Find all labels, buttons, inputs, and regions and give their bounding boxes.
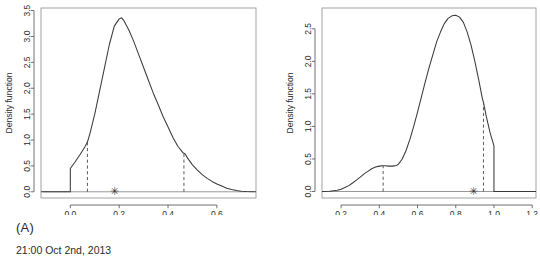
x-tick-label: 0.4: [162, 209, 174, 215]
y-tick-label: 1.0: [22, 134, 32, 146]
y-tick-label: 3.5: [22, 4, 32, 16]
y-tick-label: 1.0: [303, 120, 313, 132]
y-axis-title: Density function: [285, 72, 295, 133]
x-tick-label: 1.0: [488, 209, 500, 215]
panel-a: 0.00.20.40.60.00.51.01.52.02.53.03.5Wind…: [0, 0, 270, 264]
y-tick-label: 1.5: [22, 108, 32, 120]
y-tick-label: 0.0: [22, 186, 32, 198]
density-plot-b: 0.20.40.60.81.01.20.00.51.01.52.02.5Wind…: [270, 0, 540, 215]
y-tick-label: 2.0: [303, 55, 313, 67]
y-tick-label: 2.0: [22, 82, 32, 94]
density-curve: [322, 15, 536, 191]
y-tick-label: 0.5: [22, 160, 32, 172]
y-tick-label: 2.5: [22, 56, 32, 68]
x-tick-label: 1.2: [526, 209, 538, 215]
x-tick-label: 0.4: [373, 209, 385, 215]
x-tick-label: 0.0: [64, 209, 76, 215]
y-tick-label: 2.5: [303, 23, 313, 35]
y-tick-label: 0.0: [303, 185, 313, 197]
plot-frame: [322, 8, 536, 198]
x-tick-label: 0.6: [211, 209, 223, 215]
observation-star-marker: ✳: [110, 185, 119, 197]
panel-a-letter: (A): [16, 220, 34, 235]
x-tick-label: 0.2: [113, 209, 125, 215]
panel-b: 0.20.40.60.81.01.20.00.51.01.52.02.5Wind…: [270, 0, 540, 264]
y-tick-label: 3.0: [22, 30, 32, 42]
figure-density-functions: 0.00.20.40.60.00.51.01.52.02.53.03.5Wind…: [0, 0, 540, 264]
x-tick-label: 0.8: [450, 209, 462, 215]
density-plot-a: 0.00.20.40.60.00.51.01.52.02.53.03.5Wind…: [0, 0, 270, 215]
density-curve: [41, 18, 256, 192]
x-tick-label: 0.2: [335, 209, 347, 215]
y-tick-label: 1.5: [303, 88, 313, 100]
observation-star-marker: ✳: [469, 185, 478, 197]
x-tick-label: 0.6: [412, 209, 424, 215]
panel-a-caption: 21:00 Oct 2nd, 2013: [16, 244, 111, 256]
plot-frame: [41, 8, 256, 198]
y-axis-title: Density function: [4, 72, 14, 133]
y-tick-label: 0.5: [303, 153, 313, 165]
